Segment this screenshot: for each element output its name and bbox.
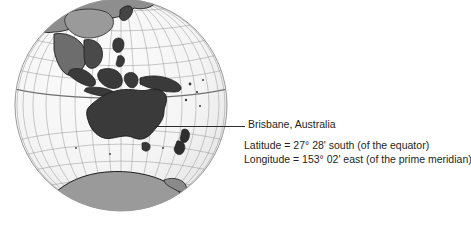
landmass-tasmania [142,142,150,151]
globe-illustration [14,0,228,222]
place-label: Brisbane, Australia [248,118,470,131]
coordinate-list: Latitude = 27° 28' south (of the equator… [244,138,470,166]
globe-svg [14,0,228,222]
callout-annotation: Brisbane, Australia Latitude = 27° 28' s… [248,118,470,166]
leader-line [155,126,245,127]
figure-canvas: Brisbane, Australia Latitude = 27° 28' s… [0,0,471,225]
latitude-line: Latitude = 27° 28' south (of the equator… [244,138,470,152]
longitude-line: Longitude = 153° 02' east (of the prime … [244,152,470,166]
